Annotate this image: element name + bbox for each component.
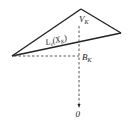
label-vertex-v: VK xyxy=(79,14,90,25)
arrow-head-icon xyxy=(78,104,81,108)
label-foot-point-b: BK xyxy=(82,52,93,63)
triangle xyxy=(12,9,121,56)
label-line-le: Le(XK) xyxy=(43,33,68,49)
geometry-diagram: VK Le(XK) BK 0 xyxy=(0,0,130,125)
label-origin: 0 xyxy=(76,109,81,119)
